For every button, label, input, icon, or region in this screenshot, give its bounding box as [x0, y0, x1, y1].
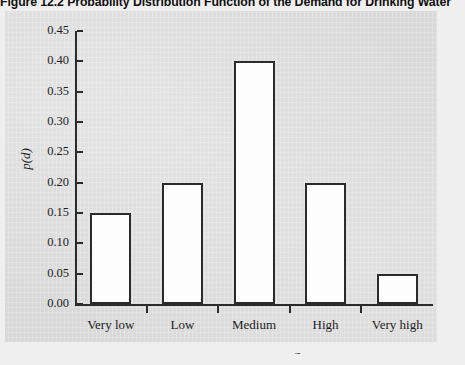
y-axis-tick — [77, 60, 83, 62]
y-axis-tick-label: 0.35 — [23, 85, 69, 97]
plot-area: 0.000.050.100.150.200.250.300.350.400.45… — [0, 11, 465, 353]
chart-figure: 0.000.050.100.150.200.250.300.350.400.45… — [0, 11, 465, 353]
bar — [90, 213, 131, 304]
bar — [162, 183, 203, 304]
page-margin-right — [437, 11, 465, 353]
y-axis-tick-label: 0.10 — [23, 236, 69, 248]
y-axis-tick — [77, 182, 83, 184]
x-axis-tick-label: Very high — [352, 317, 442, 332]
bar — [234, 61, 275, 304]
y-axis-tick-label: 0.40 — [23, 54, 69, 66]
page-margin-bottom — [0, 342, 465, 353]
y-axis-line — [75, 31, 77, 306]
y-axis-tick — [77, 273, 83, 275]
y-axis-tick-label: 0.00 — [23, 297, 69, 309]
y-axis-tick — [77, 212, 83, 214]
x-axis-tick — [146, 306, 148, 313]
y-axis-tick-label: 0.45 — [23, 24, 69, 36]
x-axis-line — [75, 304, 433, 306]
figure-caption: Figure 12.2 Probability Distribution Fun… — [0, 0, 465, 11]
x-axis-tick — [217, 306, 219, 313]
y-axis-tick-label: 0.30 — [23, 115, 69, 127]
page-margin-left — [0, 11, 5, 353]
x-axis-tick — [289, 306, 291, 313]
y-axis-tick — [77, 151, 83, 153]
bar — [377, 274, 418, 304]
y-axis-tick — [77, 91, 83, 93]
y-axis-tick-label: 0.05 — [23, 267, 69, 279]
x-axis-tick — [360, 306, 362, 313]
y-axis-tick-label: 0.15 — [23, 206, 69, 218]
bar — [305, 183, 346, 304]
y-axis-title: p(d) — [18, 129, 34, 189]
y-axis-tick — [77, 121, 83, 123]
y-axis-tick — [77, 303, 83, 305]
y-axis-tick — [77, 30, 83, 32]
y-axis-tick — [77, 242, 83, 244]
